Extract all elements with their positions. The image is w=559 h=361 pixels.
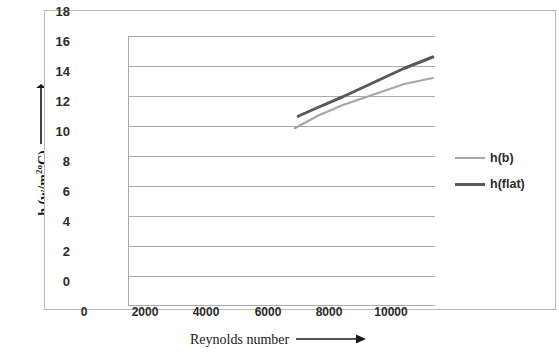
ytick-label: 18 xyxy=(42,4,70,19)
y-axis-line xyxy=(128,36,129,306)
xtick-label: 6000 xyxy=(238,305,298,319)
legend-item-hb[interactable]: h(b) xyxy=(455,145,550,171)
xtick-label: 8000 xyxy=(299,305,359,319)
series-line-hflat xyxy=(298,57,433,116)
chart-legend: h(b) h(flat) xyxy=(455,145,550,197)
ytick-label: 4 xyxy=(42,214,70,229)
ytick-label: 0 xyxy=(42,274,70,289)
ytick-label: 8 xyxy=(42,154,70,169)
legend-line-swatch-hflat xyxy=(455,183,485,186)
data-series-layer xyxy=(295,57,433,128)
xtick-label: 2000 xyxy=(115,305,175,319)
x-axis-title-label: Reynolds number xyxy=(190,332,289,348)
xtick-label: 0 xyxy=(54,305,114,319)
xtick-label: 10000 xyxy=(361,305,421,319)
legend-label-hb: h(b) xyxy=(490,151,514,165)
ytick-label: 2 xyxy=(42,244,70,259)
legend-item-hflat[interactable]: h(flat) xyxy=(455,171,550,197)
right-arrow-icon xyxy=(295,332,367,348)
ytick-label: 10 xyxy=(42,124,70,139)
ytick-label: 16 xyxy=(42,34,70,49)
chart-figure: h (w/m2oC) Reynolds number 18 16 14 12 1… xyxy=(0,0,559,361)
legend-label-hflat: h(flat) xyxy=(490,177,525,191)
ytick-label: 14 xyxy=(42,64,70,79)
x-axis-title: Reynolds number xyxy=(190,332,367,348)
plot-svg xyxy=(128,36,435,306)
legend-line-swatch-hb xyxy=(455,157,485,159)
xtick-label: 4000 xyxy=(176,305,236,319)
plot-area xyxy=(128,36,435,306)
ytick-label: 12 xyxy=(42,94,70,109)
ytick-label: 6 xyxy=(42,184,70,199)
